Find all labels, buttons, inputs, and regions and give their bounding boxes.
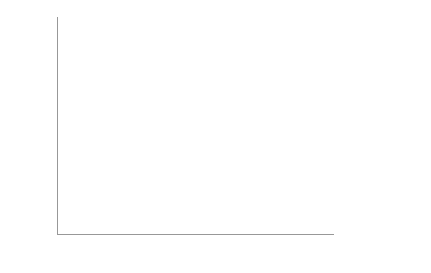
stacked-area-chart xyxy=(0,0,431,273)
chart-svg xyxy=(0,0,431,273)
chart-background xyxy=(0,0,431,273)
